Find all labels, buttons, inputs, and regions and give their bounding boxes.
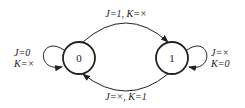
state-0-label: 0 [76, 52, 82, 64]
self-loop-0-label-k: K=× [13, 58, 34, 69]
state-1: 1 [156, 42, 188, 74]
self-loop-1-arrow [187, 46, 207, 67]
state-1-label: 1 [169, 52, 175, 64]
transition-1-to-0-arrow [83, 74, 168, 91]
state-0: 0 [63, 42, 95, 74]
self-loop-1-label-k: K=0 [210, 58, 229, 69]
transition-1-to-0-label: J=×, K=1 [105, 91, 146, 102]
self-loop-0-label-j: J=0 [14, 47, 30, 58]
transition-0-to-1-arrow [83, 23, 168, 42]
state-diagram: 0 1 J=1, K=× J=×, K=1 J=0 K=× J=× K=0 [0, 0, 245, 108]
self-loop-0-arrow [43, 46, 64, 67]
transition-0-to-1-label: J=1, K=× [105, 8, 146, 19]
self-loop-1-label-j: J=× [211, 47, 229, 58]
